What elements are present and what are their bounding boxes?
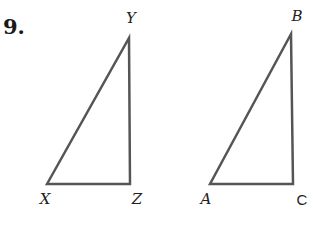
vertex-label-y: Y	[126, 11, 136, 26]
vertex-label-z: Z	[132, 192, 142, 207]
triangle-abc	[210, 34, 293, 184]
vertex-label-x: X	[40, 192, 51, 207]
diagram-canvas: 9. X Y Z A B C	[0, 0, 313, 232]
triangle-xyz	[47, 38, 130, 184]
vertex-label-c: C	[297, 192, 308, 207]
vertex-label-a: A	[201, 192, 212, 207]
vertex-label-b: B	[291, 9, 302, 24]
